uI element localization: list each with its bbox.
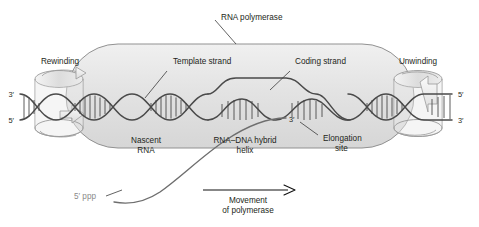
label-elongation-site-line2: site — [335, 144, 348, 153]
leader-ppp — [106, 190, 122, 196]
rewinding-coil — [35, 67, 86, 137]
label-rna-polymerase: RNA polymerase — [221, 13, 283, 22]
label-right-top-prime: 5′ — [458, 90, 464, 99]
label-five-prime-ppp: 5′ ppp — [74, 192, 96, 201]
label-unwinding: Unwinding — [399, 57, 438, 66]
transcription-elongation-figure: RNA polymerase Template strand Coding st… — [0, 0, 479, 227]
label-hybrid-helix-line1: RNA–DNA hybrid — [213, 136, 277, 145]
label-template-strand: Template strand — [173, 57, 232, 66]
label-rewinding: Rewinding — [41, 57, 80, 66]
label-left-bottom-prime: 5′ — [9, 116, 15, 125]
label-coding-strand: Coding strand — [295, 57, 346, 66]
rna-polymerase-body — [66, 44, 414, 148]
label-left-top-prime: 3′ — [9, 90, 15, 99]
label-rna-three-prime: 3′ — [289, 115, 295, 124]
leader-rna-polymerase — [215, 20, 236, 44]
label-right-bottom-prime: 3′ — [458, 116, 464, 125]
label-elongation-site-line1: Elongation — [323, 134, 362, 143]
label-nascent-rna-line1: Nascent — [131, 136, 162, 145]
label-nascent-rna-line2: RNA — [137, 146, 155, 155]
movement-arrow — [203, 185, 295, 195]
label-movement-line1: Movement — [229, 196, 268, 205]
label-hybrid-helix-line2: helix — [237, 146, 254, 155]
label-movement-line2: of polymerase — [222, 206, 274, 215]
